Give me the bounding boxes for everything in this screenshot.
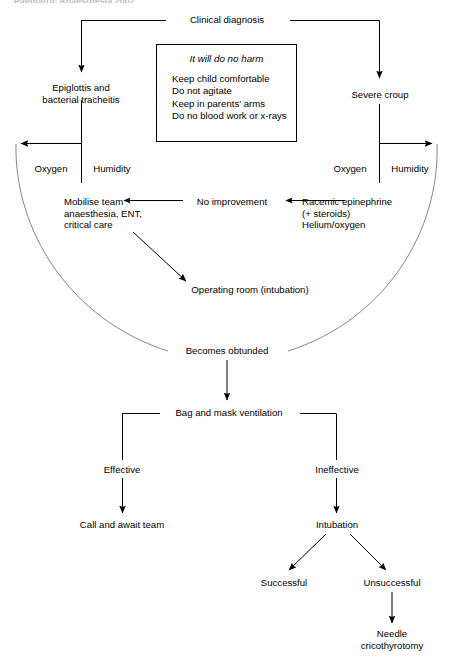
node-epiglottis-bacterial-tracheitis: Epiglottis and bacterial tracheitis [42,82,119,105]
label-oxygen-left: Oxygen [34,163,67,175]
advice-item-keep-child-comfortable: Keep child comfortable [157,73,296,85]
node-mobilise-team: Mobilise team anaesthesia, ENT, critical… [64,196,142,231]
node-needle-cricothyrotomy: Needle cricothyrotomy [361,628,423,651]
edge-arc-left-to-obtunded [16,144,168,351]
node-bag-and-mask-ventilation: Bag and mask ventilation [175,407,282,419]
node-racemic-epinephrine: Racemic epinephrine (+ steroids) Helium/… [302,196,392,231]
advice-item-no-blood-work-or-xrays: Do no blood work or x-rays [157,110,296,122]
flowchart-page: Paediatric Anaesthesia 2002 [0,0,453,663]
node-unsuccessful: Unsuccessful [363,577,420,589]
node-clinical-diagnosis: Clinical diagnosis [190,14,264,26]
node-no-improvement: No improvement [197,196,267,208]
node-call-and-await-team: Call and await team [80,519,164,531]
advice-item-keep-in-parents-arms: Keep in parents' arms [157,98,296,110]
node-operating-room: Operating room (intubation) [191,284,308,296]
edge-arc-right-to-obtunded [288,144,437,351]
advice-box: It will do no harm Keep child comfortabl… [156,44,297,142]
label-oxygen-right: Oxygen [333,163,366,175]
node-effective: Effective [104,464,141,476]
label-humidity-left: Humidity [93,163,130,175]
node-severe-croup: Severe croup [351,89,408,101]
edge-intubation-to-unsuccessful [350,534,386,570]
edge-intubation-to-successful [289,534,326,570]
label-humidity-right: Humidity [391,163,428,175]
node-intubation: Intubation [316,519,358,531]
edge-mobilise-to-operating-room [133,232,186,281]
node-ineffective: Ineffective [315,464,359,476]
node-successful: Successful [261,577,307,589]
advice-item-do-not-agitate: Do not agitate [157,85,296,97]
advice-box-title: It will do no harm [157,53,296,64]
node-becomes-obtunded: Becomes obtunded [186,345,269,357]
